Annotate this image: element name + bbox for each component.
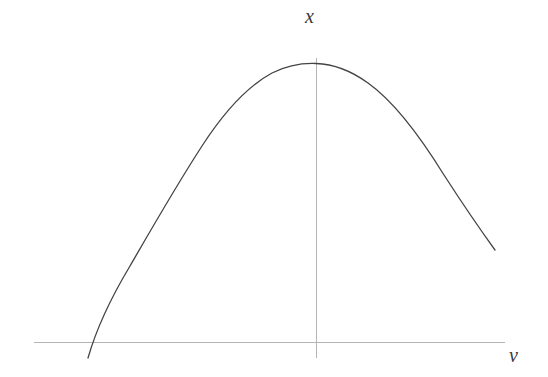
plot-svg (0, 0, 548, 377)
figure-canvas: x v (0, 0, 548, 377)
parabola-curve (88, 63, 495, 358)
horizontal-axis-label: v (509, 345, 518, 365)
vertical-axis-label: x (305, 6, 314, 26)
